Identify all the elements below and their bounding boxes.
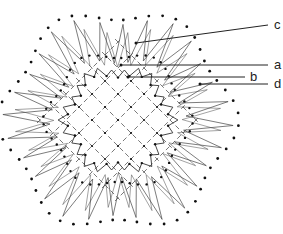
label-b: b (250, 70, 257, 83)
vertex-dots (0, 14, 240, 225)
label-a: a (274, 58, 281, 71)
leader-line-c (136, 25, 268, 43)
star-structure-diagram (0, 0, 283, 234)
label-leader-lines (121, 25, 268, 84)
label-c: c (274, 18, 281, 31)
label-d: d (274, 77, 281, 90)
